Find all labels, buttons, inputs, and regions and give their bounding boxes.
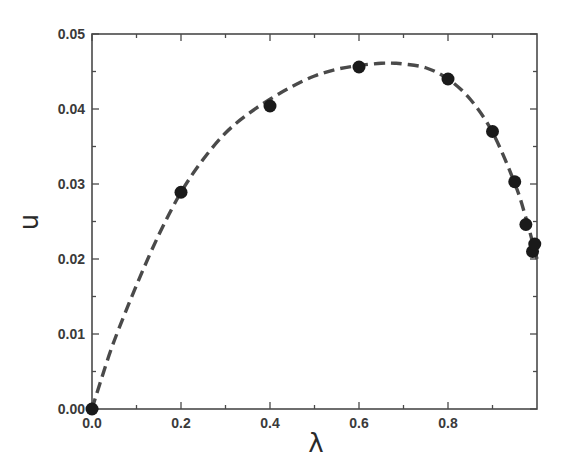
data-point xyxy=(528,238,541,251)
x-axis-label: λ xyxy=(308,428,323,458)
data-point xyxy=(175,186,188,199)
data-point xyxy=(508,175,521,188)
axis-ticks xyxy=(92,34,537,409)
plot-frame xyxy=(92,34,537,409)
y-tick-labels: 0.000.010.020.030.040.05 xyxy=(58,26,85,417)
data-points xyxy=(86,61,542,416)
x-tick-labels: 0.00.20.40.60.8 xyxy=(82,415,458,431)
x-tick-label: 0.0 xyxy=(82,415,102,431)
y-tick-label: 0.03 xyxy=(58,176,85,192)
y-axis-label: u xyxy=(14,214,44,230)
x-tick-label: 0.8 xyxy=(438,415,458,431)
data-point xyxy=(442,73,455,86)
data-point xyxy=(353,61,366,74)
x-tick-label: 0.6 xyxy=(349,415,369,431)
y-tick-label: 0.05 xyxy=(58,26,85,42)
y-tick-label: 0.02 xyxy=(58,251,85,267)
y-tick-label: 0.04 xyxy=(58,101,85,117)
data-point xyxy=(86,403,99,416)
x-tick-label: 0.2 xyxy=(171,415,191,431)
y-tick-label: 0.00 xyxy=(58,401,85,417)
data-point xyxy=(519,218,532,231)
fit-curve-dashed xyxy=(92,63,537,409)
data-point xyxy=(264,100,277,113)
y-tick-label: 0.01 xyxy=(58,326,85,342)
chart: 0.00.20.40.60.8 0.000.010.020.030.040.05… xyxy=(0,0,563,470)
data-point xyxy=(486,125,499,138)
x-tick-label: 0.4 xyxy=(260,415,280,431)
